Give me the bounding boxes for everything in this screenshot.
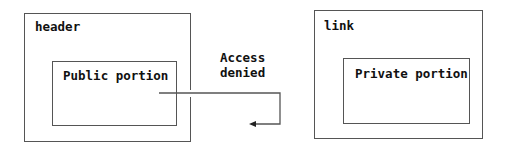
arrow-left-icon — [249, 121, 256, 127]
access-denied-connector — [0, 0, 507, 150]
